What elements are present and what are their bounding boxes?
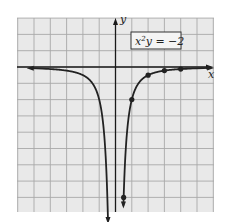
data-point	[146, 73, 151, 78]
graph-plot: y x x2y = −2	[0, 0, 225, 222]
equation-label-box: x2y = −2	[131, 32, 184, 49]
data-point	[178, 66, 183, 71]
y-axis-label: y	[119, 13, 127, 26]
data-point	[129, 97, 134, 102]
data-point	[121, 195, 126, 200]
data-point	[162, 68, 167, 73]
x-axis-label: x	[208, 68, 215, 81]
equation-rest: y = −2	[145, 35, 185, 48]
